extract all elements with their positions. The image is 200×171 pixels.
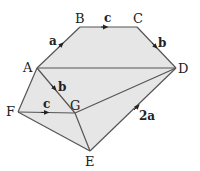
vector-label-AG: b xyxy=(58,80,66,94)
vertex-label-F: F xyxy=(6,104,15,119)
vector-label-ED: 2a xyxy=(139,109,155,123)
vector-hexagon-diagram: A B C D E F G a c b b c 2a xyxy=(0,0,200,171)
vector-label-CD: b xyxy=(158,36,166,50)
shaded-region xyxy=(18,27,176,151)
vertex-label-C: C xyxy=(133,11,143,26)
vertex-label-E: E xyxy=(85,154,95,169)
vector-label-AB: a xyxy=(49,34,57,48)
vector-label-FG: c xyxy=(43,97,50,111)
vertex-label-A: A xyxy=(22,60,33,75)
vertex-label-B: B xyxy=(75,11,85,26)
vector-label-BC: c xyxy=(104,11,111,25)
vertex-label-D: D xyxy=(178,61,188,76)
vertex-label-G: G xyxy=(70,98,80,113)
